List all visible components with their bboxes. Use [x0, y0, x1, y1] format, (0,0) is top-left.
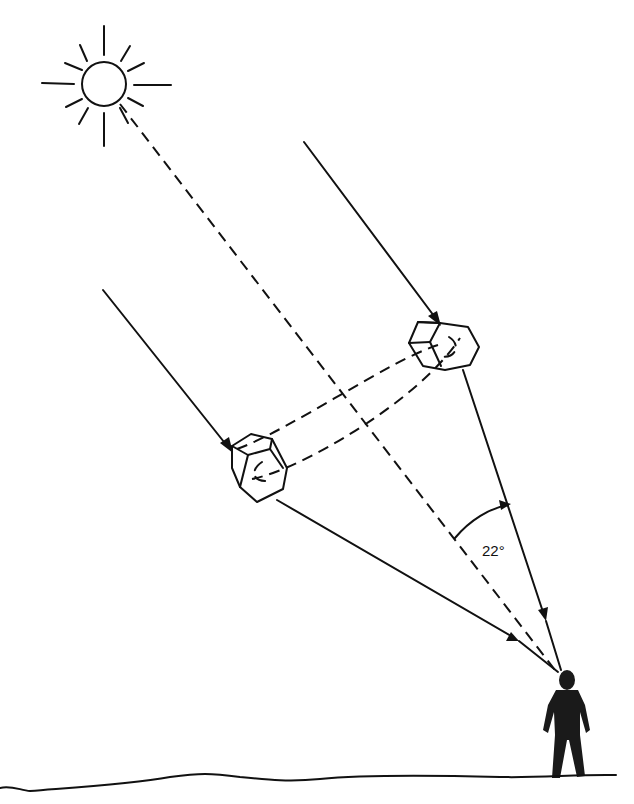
halo-diagram: 22° [0, 0, 634, 804]
ice-crystal-upper-icon [409, 322, 479, 370]
halo-ring-dashed [237, 338, 460, 479]
observer-figure-icon [543, 670, 590, 778]
refracted-ray-lower [277, 500, 558, 672]
sun-icon [42, 26, 171, 146]
arrowhead-icon [538, 607, 548, 621]
refracted-ray-upper [463, 370, 561, 670]
incoming-ray-lower [103, 290, 233, 453]
angle-label: 22° [482, 542, 505, 559]
ice-crystal-lower-icon [232, 434, 287, 502]
incoming-ray-upper [304, 142, 441, 326]
ground-line [0, 774, 616, 791]
angle-arc [455, 500, 511, 538]
